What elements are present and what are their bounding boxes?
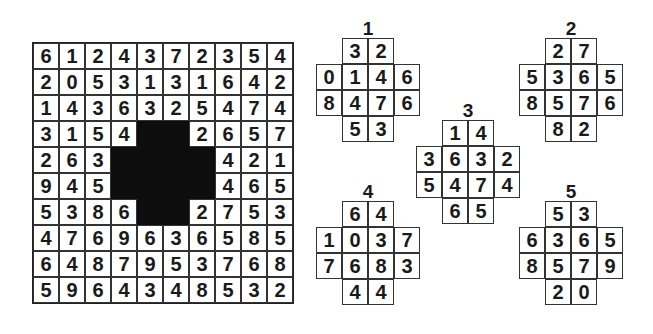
empty-slot — [416, 120, 442, 146]
piece-cell: 6 — [519, 227, 545, 253]
empty-slot — [316, 201, 342, 227]
piece-cell: 4 — [342, 90, 368, 116]
grid-cell: 1 — [59, 121, 85, 147]
grid-cell: 6 — [33, 251, 59, 277]
grid-cell: 5 — [33, 199, 59, 225]
grid-cell: 4 — [111, 277, 137, 303]
piece-cell: 2 — [545, 279, 571, 305]
piece-label: 5 — [519, 181, 623, 203]
blacked-out-cell — [137, 121, 163, 147]
piece-cell: 3 — [571, 201, 597, 227]
piece-cell: 7 — [316, 253, 342, 279]
piece-cell: 3 — [368, 116, 394, 142]
grid-cell: 2 — [267, 69, 293, 95]
blacked-out-cell — [163, 199, 189, 225]
grid-cell: 5 — [215, 277, 241, 303]
empty-slot — [519, 279, 545, 305]
piece-cell: 8 — [519, 253, 545, 279]
grid-cell: 8 — [85, 251, 111, 277]
empty-slot — [316, 38, 342, 64]
grid-cell: 4 — [59, 173, 85, 199]
grid-cell: 3 — [85, 95, 111, 121]
grid-cell: 6 — [215, 69, 241, 95]
grid-cell: 5 — [163, 251, 189, 277]
grid-cell: 3 — [189, 251, 215, 277]
grid-cell: 7 — [111, 251, 137, 277]
grid-cell: 9 — [33, 173, 59, 199]
grid-cell: 7 — [59, 225, 85, 251]
empty-slot — [316, 279, 342, 305]
grid-cell: 3 — [163, 225, 189, 251]
grid-cell: 6 — [241, 173, 267, 199]
grid-cell: 1 — [189, 69, 215, 95]
piece-cell: 5 — [597, 227, 623, 253]
blacked-out-cell — [163, 147, 189, 173]
grid-cell: 7 — [241, 95, 267, 121]
grid-cell: 9 — [137, 251, 163, 277]
blacked-out-cell — [163, 121, 189, 147]
piece-cell: 8 — [368, 253, 394, 279]
grid-cell: 4 — [111, 43, 137, 69]
piece-cell: 4 — [468, 120, 494, 146]
piece-cell: 3 — [545, 227, 571, 253]
grid-cell: 1 — [267, 147, 293, 173]
grid-cell: 6 — [189, 225, 215, 251]
piece-grid: 641037768344 — [316, 201, 420, 305]
grid-cell: 2 — [85, 43, 111, 69]
piece-cell: 5 — [597, 64, 623, 90]
piece-cell: 5 — [545, 201, 571, 227]
piece-cell: 7 — [368, 90, 394, 116]
piece-cell: 8 — [545, 116, 571, 142]
piece-cell: 8 — [519, 90, 545, 116]
piece-cell: 7 — [571, 38, 597, 64]
piece-grid: 143632547465 — [416, 120, 520, 224]
piece-cell: 1 — [342, 64, 368, 90]
piece-cell: 5 — [545, 253, 571, 279]
piece-cell: 6 — [571, 227, 597, 253]
piece-cell: 6 — [442, 146, 468, 172]
grid-cell: 5 — [241, 199, 267, 225]
grid-cell: 2 — [33, 69, 59, 95]
piece-cell: 5 — [519, 64, 545, 90]
grid-cell: 5 — [85, 121, 111, 147]
grid-cell: 7 — [163, 43, 189, 69]
piece-cell: 4 — [368, 279, 394, 305]
piece-cell: 4 — [442, 172, 468, 198]
piece-label: 4 — [316, 181, 420, 203]
piece-cell: 6 — [342, 201, 368, 227]
piece-label: 1 — [316, 18, 420, 40]
grid-cell: 8 — [267, 251, 293, 277]
grid-cell: 4 — [267, 95, 293, 121]
grid-cell: 3 — [85, 147, 111, 173]
piece-cell: 2 — [494, 146, 520, 172]
piece-cell: 4 — [368, 201, 394, 227]
piece-cell: 0 — [342, 227, 368, 253]
grid-cell: 2 — [163, 95, 189, 121]
grid-cell: 9 — [59, 277, 85, 303]
piece-cell: 3 — [468, 146, 494, 172]
blacked-out-cell — [111, 147, 137, 173]
piece-grid: 536365857920 — [519, 201, 623, 305]
piece-cell: 7 — [468, 172, 494, 198]
piece-cell: 5 — [545, 90, 571, 116]
empty-slot — [494, 198, 520, 224]
piece-cell: 2 — [571, 116, 597, 142]
empty-slot — [316, 116, 342, 142]
grid-cell: 2 — [189, 199, 215, 225]
blacked-out-cell — [137, 199, 163, 225]
grid-cell: 0 — [59, 69, 85, 95]
piece-cell: 4 — [368, 64, 394, 90]
grid-cell: 4 — [267, 43, 293, 69]
piece-cell: 6 — [342, 253, 368, 279]
grid-cell: 3 — [111, 69, 137, 95]
piece-cell: 3 — [394, 253, 420, 279]
grid-cell: 2 — [189, 43, 215, 69]
piece-grid: 275365857682 — [519, 38, 623, 142]
empty-slot — [519, 201, 545, 227]
grid-cell: 6 — [137, 225, 163, 251]
grid-cell: 5 — [33, 277, 59, 303]
piece-cell: 6 — [571, 64, 597, 90]
grid-cell: 3 — [137, 277, 163, 303]
grid-cell: 4 — [163, 277, 189, 303]
grid-cell: 2 — [267, 277, 293, 303]
